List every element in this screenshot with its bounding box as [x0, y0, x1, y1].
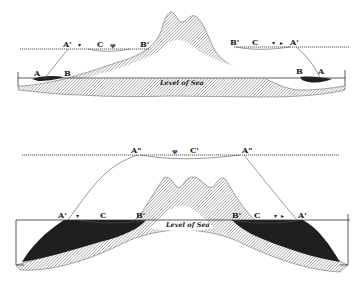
label-bottom-left-A-prime: A' — [57, 210, 67, 220]
bottom-sea-level-label: Level of Sea — [165, 221, 210, 229]
marsh-symbol-bottom-upper: ψ — [172, 147, 178, 155]
marsh-symbol-top-right-2: ▸ — [280, 39, 283, 46]
label-top-left-C: C — [97, 39, 103, 49]
label-bottom-C-prime: C' — [190, 145, 199, 155]
top-right-deposit — [300, 77, 332, 83]
label-bottom-A-double-prime-left: A" — [130, 145, 141, 155]
marsh-symbol-bottom-right-1: ▾ — [274, 212, 277, 219]
bottom-right-slope-line — [244, 155, 297, 220]
geology-diagram: A B A' C B' ▾ ψ B' C A' B A ▾ ▸ Level of… — [0, 0, 364, 286]
label-top-right-A: A — [317, 66, 325, 76]
marsh-symbol-bottom-left: ▾ — [76, 212, 79, 219]
label-bottom-right-C: C — [254, 210, 260, 220]
label-bottom-right-A-prime: A' — [297, 210, 307, 220]
marsh-symbol-top-left-2: ψ — [110, 41, 116, 49]
label-top-left-B: B — [64, 68, 71, 78]
marsh-symbol-top-left-1: ▾ — [78, 41, 81, 48]
label-top-right-C: C — [252, 37, 258, 47]
label-top-left-A-prime: A' — [62, 39, 72, 49]
top-sea-level-label: Level of Sea — [159, 79, 204, 87]
label-top-right-A-prime: A' — [289, 37, 299, 47]
label-bottom-right-B-prime: B' — [232, 210, 241, 220]
bottom-upper-lake-curve — [140, 155, 240, 159]
label-top-right-B-prime: B' — [230, 37, 239, 47]
label-bottom-A-double-prime-right: A" — [241, 145, 252, 155]
label-bottom-left-B-prime: B' — [136, 210, 145, 220]
marsh-symbol-top-right-1: ▾ — [272, 39, 275, 46]
top-section: A B A' C B' ▾ ψ B' C A' B A ▾ ▸ Level of… — [18, 12, 350, 97]
label-top-left-B-prime: B' — [140, 39, 149, 49]
bottom-section: A" ψ C' A" A' ▾ C B' B' C ▾ ▸ A' Level o… — [16, 145, 350, 272]
label-bottom-left-C: C — [100, 210, 106, 220]
label-top-right-B: B — [296, 66, 303, 76]
marsh-symbol-bottom-right-2: ▸ — [281, 212, 284, 219]
label-top-left-A: A — [33, 68, 41, 78]
